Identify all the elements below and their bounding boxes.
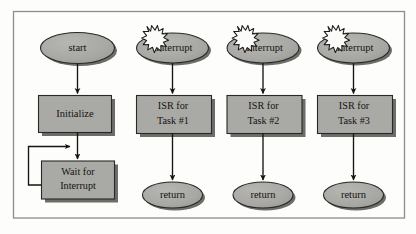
node-isr-3: ISR for Task #3 [318, 96, 397, 138]
isr-2-label-line2: Task #2 [248, 115, 280, 126]
isr-3-label-line1: ISR for [339, 100, 370, 111]
node-isr-2: ISR for Task #2 [227, 96, 306, 138]
node-isr-1: ISR for Task #1 [137, 96, 216, 138]
wait-label-line1: Wait for [61, 166, 95, 177]
isr-1-label-line2: Task #1 [157, 115, 189, 126]
flowchart-diagram: start Initialize Wait for Interrupt Inte… [0, 0, 416, 234]
node-initialize: Initialize [39, 96, 116, 137]
wait-label-line2: Interrupt [60, 180, 96, 191]
initialize-label: Initialize [56, 108, 94, 119]
return-3-label: return [341, 189, 367, 200]
node-wait-for-interrupt: Wait for Interrupt [42, 161, 119, 203]
isr-1-label-line1: ISR for [158, 100, 189, 111]
return-1-label: return [160, 189, 186, 200]
diagram-canvas: start Initialize Wait for Interrupt Inte… [0, 0, 416, 234]
isr-2-label-line1: ISR for [248, 100, 279, 111]
return-2-label: return [250, 189, 276, 200]
isr-3-label-line2: Task #3 [338, 115, 370, 126]
start-label: start [68, 42, 86, 53]
